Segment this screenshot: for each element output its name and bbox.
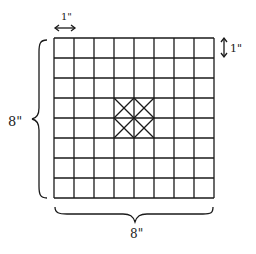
total-width-label: 8" <box>130 227 143 241</box>
grid-diagram: 1" 1" 8" 8" <box>0 0 256 254</box>
total-height-label: 8" <box>8 114 22 129</box>
left-brace-icon <box>32 40 47 198</box>
bottom-brace-icon <box>55 207 213 222</box>
horizontal-double-arrow-icon <box>55 25 75 31</box>
cell-height-label: 1" <box>230 42 242 55</box>
cell-width-label: 1" <box>61 11 72 22</box>
vertical-double-arrow-icon <box>221 38 227 57</box>
